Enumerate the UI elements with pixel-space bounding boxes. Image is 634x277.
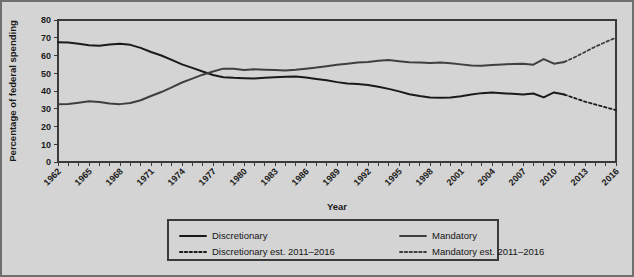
ytick-label-0: 0: [46, 157, 51, 167]
legend-label: Discretionary est. 2011–2016: [212, 246, 335, 257]
ytick-label-80: 80: [41, 15, 51, 25]
legend-label: Mandatory: [432, 230, 477, 241]
y-axis-label: Percentage of federal spending: [7, 20, 18, 162]
xtick-label-2013: 2013: [569, 166, 590, 187]
xtick-label-2016: 2016: [600, 166, 621, 187]
xtick-label-1992: 1992: [352, 166, 373, 187]
xtick-label-1980: 1980: [228, 166, 249, 187]
xtick-label-2004: 2004: [476, 166, 497, 187]
ytick-label-70: 70: [41, 33, 51, 43]
ytick-label-20: 20: [41, 122, 51, 132]
xtick-label-1995: 1995: [383, 166, 404, 187]
xtick-label-1971: 1971: [135, 166, 156, 187]
xtick-label-1983: 1983: [259, 166, 280, 187]
chart-figure: 01020304050607080 1962196519681971197419…: [0, 0, 634, 277]
legend-label: Discretionary: [212, 230, 268, 241]
xtick-label-2007: 2007: [507, 166, 528, 187]
line-chart: 01020304050607080 1962196519681971197419…: [2, 2, 632, 275]
xtick-label-1974: 1974: [166, 166, 187, 187]
xtick-label-1962: 1962: [42, 166, 63, 187]
xtick-label-2010: 2010: [538, 166, 559, 187]
y-axis-ticks: 01020304050607080: [41, 15, 58, 167]
legend-label: Mandatory est. 2011–2016: [432, 246, 544, 257]
x-axis-minor-ticks: [58, 162, 616, 166]
xtick-label-1989: 1989: [321, 166, 342, 187]
x-axis-ticks: 1962196519681971197419771980198319861989…: [42, 166, 621, 187]
xtick-label-1998: 1998: [414, 166, 435, 187]
xtick-label-2001: 2001: [445, 166, 466, 187]
plot-area-border: [58, 20, 616, 162]
x-axis-label: Year: [327, 201, 347, 212]
xtick-label-1965: 1965: [73, 166, 94, 187]
ytick-label-40: 40: [41, 86, 51, 96]
xtick-label-1968: 1968: [104, 166, 125, 187]
ytick-label-10: 10: [41, 140, 51, 150]
ytick-label-60: 60: [41, 51, 51, 61]
xtick-label-1986: 1986: [290, 166, 311, 187]
chart-legend: DiscretionaryMandatoryDiscretionary est.…: [168, 220, 544, 260]
ytick-label-30: 30: [41, 104, 51, 114]
ytick-label-50: 50: [41, 69, 51, 79]
xtick-label-1977: 1977: [197, 166, 218, 187]
